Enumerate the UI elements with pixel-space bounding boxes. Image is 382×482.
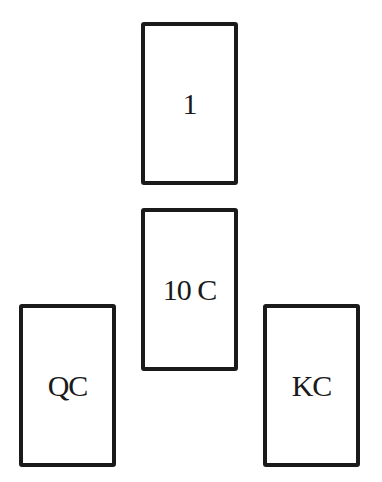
card-label: KC xyxy=(292,369,332,403)
card-1[interactable]: 1 xyxy=(141,22,238,185)
card-10-clubs[interactable]: 10 C xyxy=(141,208,238,371)
card-king-clubs[interactable]: KC xyxy=(263,304,360,467)
card-label: 10 C xyxy=(163,273,217,307)
card-label: 1 xyxy=(183,87,197,121)
card-queen-clubs[interactable]: QC xyxy=(19,304,116,467)
card-label: QC xyxy=(48,369,88,403)
